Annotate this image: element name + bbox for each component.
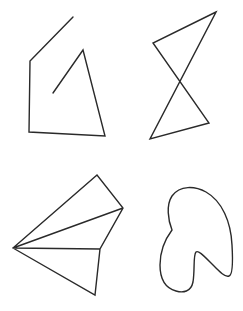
diagram-svg: [0, 0, 243, 311]
kidney-blob-curve: [160, 188, 233, 292]
figure-canvas: [0, 0, 243, 311]
bowtie-crossed-quadrilateral: [150, 12, 216, 139]
fan-triangulated-polygon: [13, 175, 123, 295]
open-spiral-polyline: [29, 17, 105, 136]
